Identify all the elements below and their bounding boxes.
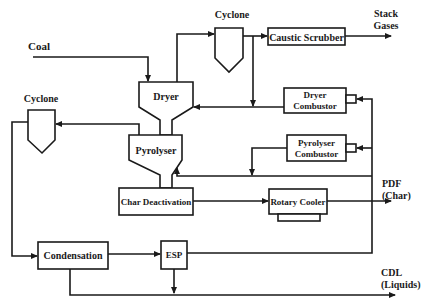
process-flow-diagram: Coal Dryer Cyclone Caustic Scrubber Stac… (0, 0, 425, 304)
pyrolyser-unit: Pyrolyser (129, 135, 182, 188)
pyrolyser-combustor-label-line1: Pyrolyser (298, 138, 335, 148)
dryer-unit: Dryer (139, 82, 193, 135)
rotary-cooler-unit: Rotary Cooler (269, 189, 327, 221)
pyrolyser-combustor-label-line2: Combustor (295, 149, 339, 159)
pyrolyser-combustor-outlet-line (252, 148, 287, 175)
condensation-unit: Condensation (38, 242, 108, 269)
cyclone-left (28, 110, 55, 153)
pdf-label-line1: PDF (382, 178, 401, 189)
pyrolyser-return-line (177, 168, 372, 176)
cyclone-left-label: Cyclone (24, 93, 59, 104)
dryer-to-cyclone-line (177, 34, 214, 82)
stack-gases-label-line1: Stack (374, 8, 398, 19)
cdl-label-line1: CDL (381, 267, 402, 278)
pyrolyser-to-cyclone-line (56, 124, 139, 135)
esp-label: ESP (166, 250, 183, 260)
pdf-label-line2: (Char) (382, 190, 411, 202)
cdl-label-line2: (Liquids) (381, 279, 420, 291)
condensation-label: Condensation (44, 250, 103, 261)
dryer-combustor-unit: Dryer Combustor (284, 88, 356, 113)
coal-feed-line (33, 57, 148, 81)
esp-unit: ESP (161, 241, 187, 269)
dryer-label: Dryer (153, 91, 179, 102)
char-deactivation-label: Char Deactivation (121, 197, 192, 207)
pyrolyser-label: Pyrolyser (136, 145, 177, 156)
cyclone-top (215, 28, 243, 72)
caustic-scrubber-unit: Caustic Scrubber (268, 28, 345, 45)
dryer-combustor-label-line1: Dryer (304, 90, 327, 100)
dryer-combustor-label-line2: Combustor (293, 101, 337, 111)
cdl-output-line (70, 269, 395, 295)
cyclone-top-label: Cyclone (215, 9, 250, 20)
coal-label: Coal (28, 40, 50, 52)
stack-gases-label-line2: Gases (374, 20, 399, 31)
pyrolyser-combustor-unit: Pyrolyser Combustor (287, 135, 356, 161)
rotary-cooler-label: Rotary Cooler (270, 197, 325, 207)
char-deactivation-unit: Char Deactivation (119, 188, 193, 215)
caustic-scrubber-label: Caustic Scrubber (269, 32, 344, 43)
